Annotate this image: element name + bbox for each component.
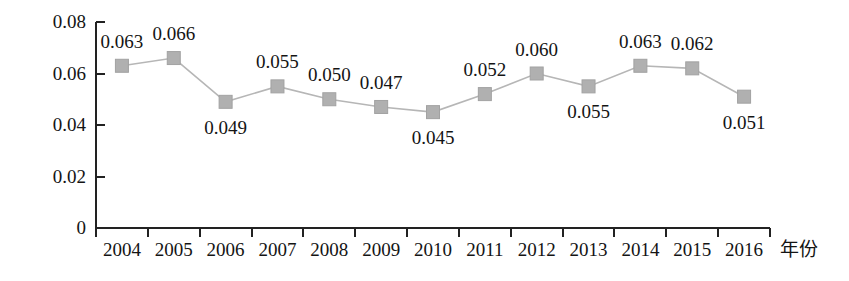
x-tick-label: 2014 (614, 240, 666, 259)
x-tick-label: 2006 (200, 240, 252, 259)
data-point-label: 0.055 (560, 102, 618, 121)
x-tick-label: 2011 (459, 240, 511, 259)
data-point-label: 0.063 (611, 32, 669, 51)
data-point-marker (271, 80, 284, 93)
data-point-marker (323, 93, 336, 106)
y-tick-label: 0.04 (0, 115, 86, 134)
data-point-label: 0.055 (248, 52, 306, 71)
x-tick-label: 2010 (407, 240, 459, 259)
x-tick-label: 2008 (303, 240, 355, 259)
y-tick-label: 0.06 (0, 64, 86, 83)
y-tick-label: 0 (0, 218, 86, 237)
data-point-marker (686, 62, 699, 75)
x-tick-label: 2015 (666, 240, 718, 259)
x-tick-label: 2009 (355, 240, 407, 259)
data-point-label: 0.060 (508, 40, 566, 59)
data-point-label: 0.045 (404, 128, 462, 147)
data-point-label: 0.066 (145, 24, 203, 43)
x-axis-title: 年份 (780, 240, 818, 259)
x-tick-label: 2016 (718, 240, 770, 259)
data-point-marker (375, 100, 388, 113)
x-tick-marks (96, 228, 770, 237)
y-tick-label: 0.02 (0, 167, 86, 186)
series-polyline (122, 58, 744, 112)
series-group (115, 52, 750, 119)
x-tick-label: 2004 (96, 240, 148, 259)
data-point-marker (219, 95, 232, 108)
data-point-marker (582, 80, 595, 93)
y-tick-label: 0.08 (0, 12, 86, 31)
data-point-marker (738, 90, 751, 103)
data-point-label: 0.051 (715, 113, 773, 132)
data-point-marker (530, 67, 543, 80)
x-tick-label: 2005 (148, 240, 200, 259)
data-point-label: 0.049 (197, 118, 255, 137)
data-point-label: 0.052 (456, 60, 514, 79)
data-point-label: 0.050 (300, 65, 358, 84)
data-point-label: 0.063 (93, 32, 151, 51)
x-tick-label: 2013 (563, 240, 615, 259)
data-point-label: 0.047 (352, 73, 410, 92)
series-markers (115, 52, 750, 119)
x-tick-label: 2012 (511, 240, 563, 259)
x-tick-label: 2007 (252, 240, 304, 259)
data-point-marker (167, 52, 180, 65)
line-chart: 00.020.040.060.08 2004200520062007200820… (0, 0, 849, 281)
data-point-marker (427, 106, 440, 119)
data-point-marker (115, 59, 128, 72)
data-point-marker (634, 59, 647, 72)
data-point-marker (478, 88, 491, 101)
data-point-label: 0.062 (663, 34, 721, 53)
y-tick-marks (96, 22, 105, 228)
